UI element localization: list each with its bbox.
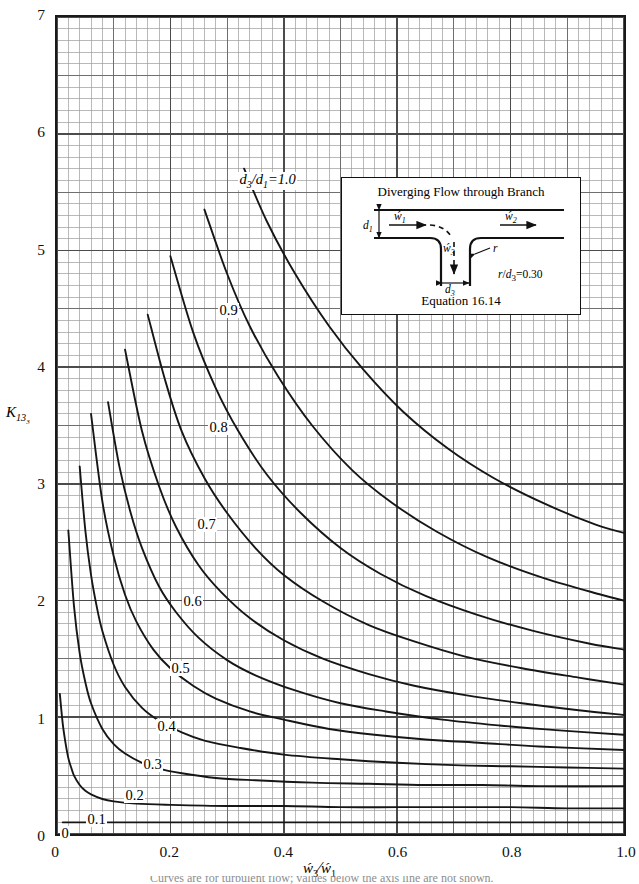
- inset-ratio-label: r/d3=0.30: [498, 268, 543, 283]
- inset-label-d1: d1: [363, 219, 373, 234]
- figure-chart: 01234567 00.20.40.60.81.0 K133 ẃ3⁄ẃ1 d3/…: [0, 0, 639, 884]
- curve: [125, 350, 624, 715]
- inset-diagram: Diverging Flow through Branch d1 d3: [341, 177, 581, 315]
- y-tick-label: 6: [11, 124, 45, 140]
- y-tick-label: 4: [11, 359, 45, 375]
- curve-label: 0.8: [208, 420, 229, 435]
- curves: [57, 17, 624, 834]
- y-tick-label: 0: [11, 828, 45, 844]
- inset-schematic: d1 d3 ẃ1 ẃ2 ẃ3 r r/d3=0.30: [342, 198, 582, 296]
- curve: [68, 531, 624, 787]
- bottom-caption-clipped: Curves are for turbulent flow; values be…: [150, 876, 620, 884]
- inset-label-w3: ẃ3: [443, 242, 455, 257]
- curve-label: 0.2: [124, 788, 145, 803]
- y-tick-label: 1: [11, 711, 45, 727]
- inset-label-w1: ẃ1: [394, 210, 406, 225]
- curve-label: 0: [60, 826, 70, 841]
- curve-label: 0.6: [182, 594, 203, 609]
- inset-label-r: r: [493, 242, 498, 254]
- curve: [91, 414, 624, 750]
- curve-label: 0.3: [142, 757, 163, 772]
- y-tick-label: 5: [11, 242, 45, 258]
- curve: [108, 402, 624, 735]
- y-tick-label: 2: [11, 593, 45, 609]
- curve-label: 0.7: [196, 517, 217, 532]
- y-tick-label: 7: [11, 7, 45, 23]
- y-axis-title: K133: [6, 404, 30, 425]
- curve-label: 0.1: [86, 812, 107, 827]
- bottom-caption-text: Curves are for turbulent flow; values be…: [150, 876, 620, 884]
- plot-area: [55, 15, 626, 836]
- curve-label: 0.4: [156, 719, 177, 734]
- inset-equation-label: Equation 16.14: [342, 293, 580, 309]
- inset-label-w2: ẃ2: [505, 210, 517, 225]
- curve: [148, 315, 624, 685]
- curve-label: 0.9: [218, 303, 239, 318]
- y-tick-label: 3: [11, 476, 45, 492]
- curve-label: 0.5: [170, 661, 191, 676]
- curve-label: d3/d1=1.0: [238, 172, 297, 190]
